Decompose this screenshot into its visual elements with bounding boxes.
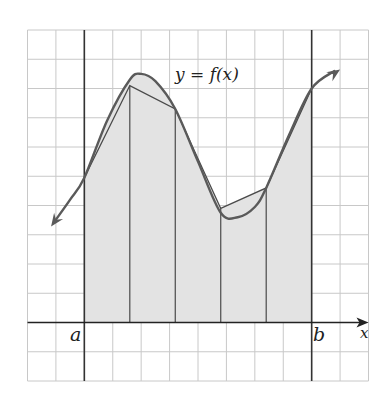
bound-label-b: b <box>313 323 325 345</box>
curve-left-arrow-icon <box>51 213 63 227</box>
x-axis-label: x <box>360 324 369 342</box>
curve-label: y = f(x) <box>174 64 239 84</box>
trapezoid-rule-figure: y = f(x) a b x <box>0 0 392 401</box>
bound-label-a: a <box>70 323 81 345</box>
plot-canvas: y = f(x) a b x <box>0 0 392 401</box>
